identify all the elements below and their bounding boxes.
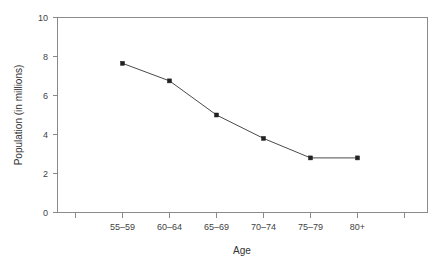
y-tick-label-10: 10 [38,13,48,23]
y-tick-label-8: 8 [43,52,48,62]
x-tick-label-1: 60–64 [157,222,182,232]
x-axis-tick-labels: 55–59 60–64 65–69 70–74 75–79 80+ [110,222,365,232]
y-tick-label-0: 0 [43,208,48,218]
x-tick-label-2: 65–69 [204,222,229,232]
y-tick-label-2: 2 [43,169,48,179]
y-axis-tick-labels: 10 8 6 4 2 0 [38,13,48,218]
line-chart-plot: 10 8 6 4 2 0 55–59 60–64 65–69 70–74 75–… [0,0,438,264]
data-point-1 [168,79,172,83]
data-point-0 [121,61,125,65]
x-tick-label-3: 70–74 [251,222,276,232]
y-tick-label-4: 4 [43,130,48,140]
plot-frame [58,18,428,213]
x-tick-label-4: 75–79 [298,222,323,232]
x-axis-title: Age [233,245,251,256]
x-tick-label-5: 80+ [350,222,365,232]
y-axis-title: Population (in millions) [13,65,24,166]
data-point-5 [356,156,360,160]
y-axis-ticks [53,18,58,213]
data-point-3 [262,136,266,140]
y-tick-label-6: 6 [43,91,48,101]
data-point-2 [215,113,219,117]
x-axis-ticks [76,213,405,219]
data-point-4 [309,156,313,160]
x-tick-label-0: 55–59 [110,222,135,232]
data-series-line [123,63,358,158]
chart-figure: 10 8 6 4 2 0 55–59 60–64 65–69 70–74 75–… [0,0,438,264]
